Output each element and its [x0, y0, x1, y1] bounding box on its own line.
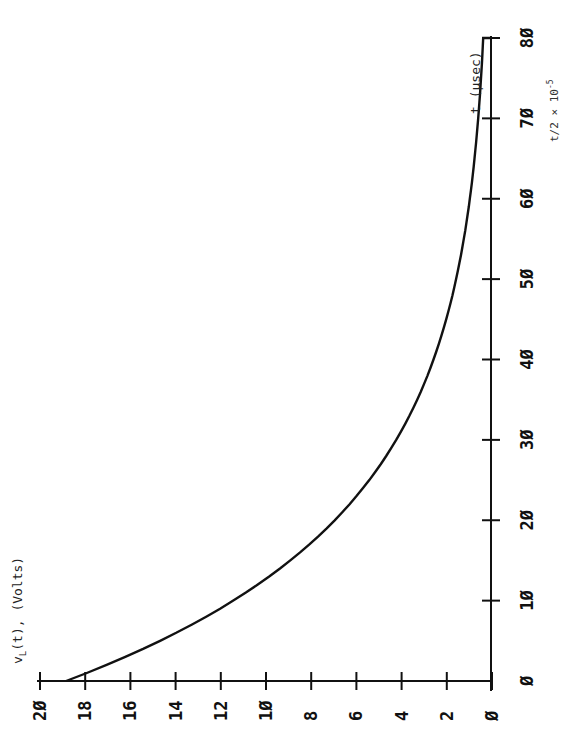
- partial-annotation: t/2 × 10-5: [546, 79, 561, 142]
- voltage-tick-label: 1Ø: [256, 700, 276, 721]
- voltage-tick-label: 2: [437, 711, 457, 721]
- voltage-tick-label: 16: [120, 701, 140, 721]
- time-tick-label: 5Ø: [517, 268, 537, 289]
- voltage-decay-chart: 2Ø181614121Ø8642Ø Ø1Ø2Ø3Ø4Ø5Ø6Ø7Ø8Ø vL(t…: [0, 0, 561, 743]
- time-tick-label: 7Ø: [517, 107, 537, 128]
- y-axis-label: vL(t), (Volts): [10, 557, 28, 664]
- time-tick-label: Ø: [517, 675, 537, 687]
- time-tick-label: 6Ø: [517, 188, 537, 209]
- voltage-tick-label: 18: [75, 701, 95, 721]
- voltage-ticks: 2Ø181614121Ø8642Ø: [30, 672, 502, 722]
- plot-area: 2Ø181614121Ø8642Ø Ø1Ø2Ø3Ø4Ø5Ø6Ø7Ø8Ø: [30, 27, 537, 722]
- voltage-tick-label: 6: [346, 711, 366, 721]
- voltage-tick-label: 8: [301, 711, 321, 721]
- x-axis-label: t (µsec): [468, 51, 483, 114]
- voltage-tick-label: Ø: [482, 710, 502, 722]
- time-tick-label: 8Ø: [517, 27, 537, 48]
- voltage-tick-label: 14: [166, 701, 186, 721]
- axis-labels: vL(t), (Volts) t (µsec) t/2 × 10-5: [10, 51, 561, 664]
- voltage-tick-label: 4: [392, 711, 412, 721]
- time-tick-label: 4Ø: [517, 348, 537, 369]
- time-tick-label: 2Ø: [517, 509, 537, 530]
- voltage-curve: [66, 38, 491, 681]
- voltage-tick-label: 2Ø: [30, 700, 50, 721]
- time-tick-label: 1Ø: [517, 590, 537, 611]
- time-tick-label: 3Ø: [517, 429, 537, 450]
- voltage-tick-label: 12: [211, 701, 231, 721]
